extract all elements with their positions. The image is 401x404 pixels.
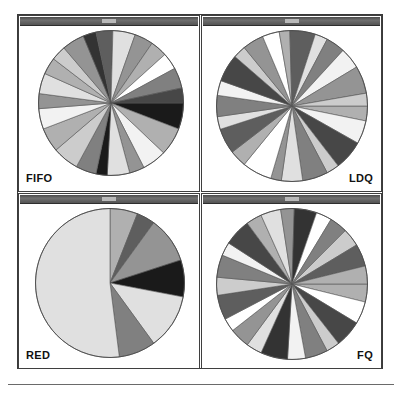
plot-area-fq: FQ [203, 204, 380, 367]
panel-titlebar-ldq [203, 17, 380, 26]
panel-ldq[interactable]: LDQ [201, 15, 382, 192]
titlebar-mark-fifo [102, 19, 116, 23]
panel-titlebar-fq [203, 195, 380, 204]
pie-chart-fifo [38, 30, 184, 176]
panel-red[interactable]: RED [18, 193, 200, 369]
pie-chart-fq [216, 208, 368, 360]
panel-titlebar-red [20, 195, 198, 204]
panel-label-red: RED [26, 349, 50, 361]
bottom-divider-rule [8, 384, 394, 385]
pie-chart-ldq [216, 30, 368, 182]
pie-chart-red [35, 208, 185, 358]
panel-grid-frame: FIFO LDQ RED [17, 14, 383, 369]
plot-area-fifo: FIFO [20, 26, 198, 190]
titlebar-mark-ldq [285, 19, 299, 23]
titlebar-mark-fq [285, 197, 299, 201]
plot-area-ldq: LDQ [203, 26, 380, 190]
panel-titlebar-fifo [20, 17, 198, 26]
pie-slice [35, 209, 119, 358]
panel-label-fifo: FIFO [26, 172, 52, 184]
panel-fifo[interactable]: FIFO [18, 15, 200, 192]
panel-fq[interactable]: FQ [201, 193, 382, 369]
panel-label-ldq: LDQ [349, 172, 373, 184]
panel-label-fq: FQ [357, 349, 373, 361]
figure-canvas: FIFO LDQ RED [0, 0, 401, 404]
plot-area-red: RED [20, 204, 198, 367]
titlebar-mark-red [102, 197, 116, 201]
